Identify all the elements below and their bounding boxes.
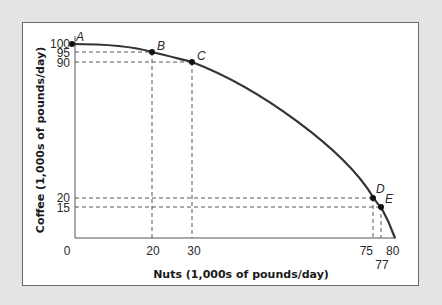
x-tick-20: 20 [146,244,160,258]
guide-lines [75,52,381,238]
x-tick-75: 75 [360,244,374,258]
label-c: C [197,49,206,63]
x-tick-80: 80 [386,244,400,258]
ppf-chart: A B C D E 100 95 90 20 15 0 20 30 75 80 … [0,0,442,305]
y-tick-15: 15 [57,201,71,215]
label-b: B [157,39,165,53]
x-tick-77: 77 [375,258,389,272]
y-axis-title: Coffee (1,000s of pounds/day) [34,47,47,233]
ppf-curve [72,44,395,238]
data-points [69,41,384,210]
label-e: E [385,192,394,206]
x-tick-30: 30 [187,244,201,258]
point-c [189,59,195,65]
label-d: D [376,182,385,196]
x-axis-title: Nuts (1,000s of pounds/day) [153,268,329,281]
y-tick-90: 90 [57,56,71,70]
point-e [378,204,384,210]
x-tick-0: 0 [64,244,71,258]
label-a: A [75,30,84,44]
point-b [149,49,155,55]
